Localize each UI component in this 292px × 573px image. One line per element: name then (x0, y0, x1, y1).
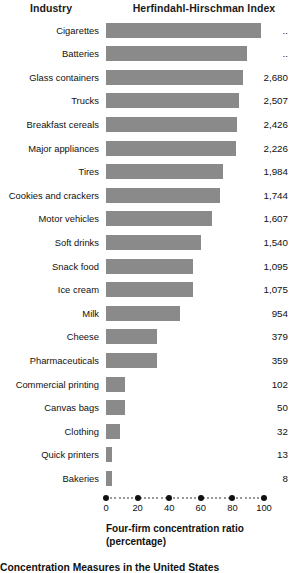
axis-dot (144, 497, 146, 499)
axis-dot (114, 497, 116, 499)
bar (106, 306, 180, 321)
industry-label: Motor vehicles (0, 207, 99, 231)
industry-label: Canvas bags (0, 396, 99, 420)
hhi-value: 8 (228, 466, 288, 490)
chart-column-headers: Industry Herfindahl-Hirschman Index (0, 0, 292, 18)
hhi-value: 2,426 (228, 112, 288, 136)
x-axis-title-line2: (percentage) (106, 536, 292, 549)
axis-tick-marker (166, 495, 172, 501)
table-row: Commercial printing102 (0, 372, 292, 396)
axis-tick-marker (198, 495, 204, 501)
hhi-value: 359 (228, 348, 288, 372)
bar (106, 471, 112, 486)
bar (106, 447, 112, 462)
industry-label: Cheese (0, 325, 99, 349)
bar (106, 70, 243, 85)
table-row: Ice cream1,075 (0, 278, 292, 302)
industry-label: Clothing (0, 419, 99, 443)
axis-dot (161, 497, 163, 499)
table-row: Major appliances2,226 (0, 136, 292, 160)
hhi-value: 50 (228, 396, 288, 420)
axis-tick-marker (229, 495, 235, 501)
table-row: Breakfast cereals2,426 (0, 112, 292, 136)
hhi-value: 1,744 (228, 183, 288, 207)
axis-dot (211, 497, 213, 499)
table-row: Cigarettes.. (0, 18, 292, 42)
industry-label: Trucks (0, 89, 99, 113)
axis-dot (110, 497, 112, 499)
axis-dot (173, 497, 175, 499)
bar (106, 424, 120, 439)
table-row: Pharmaceuticals359 (0, 348, 292, 372)
axis-dot (224, 497, 226, 499)
industry-label: Pharmaceuticals (0, 348, 99, 372)
axis-tick-marker (103, 495, 109, 501)
header-herfindahl-hirschman-index: Herfindahl-Hirschman Index (118, 2, 290, 14)
bar (106, 164, 223, 179)
industry-label: Cookies and crackers (0, 183, 99, 207)
axis-dot (152, 497, 154, 499)
bar (106, 329, 157, 344)
hhi-value: 1,095 (228, 254, 288, 278)
axis-dot (177, 497, 179, 499)
axis-dot (186, 497, 188, 499)
table-row: Quick printers13 (0, 443, 292, 467)
header-industry: Industry (0, 2, 102, 14)
hhi-value: 1,984 (228, 160, 288, 184)
industry-label: Soft drinks (0, 230, 99, 254)
bar (106, 93, 239, 108)
axis-dot (131, 497, 133, 499)
bar (106, 117, 237, 132)
table-row: Milk954 (0, 301, 292, 325)
caption-divider (0, 556, 292, 557)
table-row: Tires1,984 (0, 160, 292, 184)
hhi-value: .. (228, 42, 288, 66)
industry-label: Breakfast cereals (0, 112, 99, 136)
axis-dot (127, 497, 129, 499)
axis-dot (190, 497, 192, 499)
hhi-value: .. (228, 18, 288, 42)
hhi-value: 954 (228, 301, 288, 325)
table-row: Cookies and crackers1,744 (0, 183, 292, 207)
axis-tick-marker (135, 495, 141, 501)
axis-dot (245, 497, 247, 499)
industry-label: Tires (0, 160, 99, 184)
industry-label: Ice cream (0, 278, 99, 302)
table-row: Batteries.. (0, 42, 292, 66)
axis-dot (257, 497, 259, 499)
axis-dot (182, 497, 184, 499)
axis-dot (194, 497, 196, 499)
industry-label: Bakeries (0, 466, 99, 490)
table-row: Soft drinks1,540 (0, 230, 292, 254)
hhi-value: 32 (228, 419, 288, 443)
axis-dot (148, 497, 150, 499)
table-row: Canvas bags50 (0, 396, 292, 420)
industry-label: Commercial printing (0, 372, 99, 396)
table-row: Bakeries8 (0, 466, 292, 490)
industry-label: Batteries (0, 42, 99, 66)
x-axis: 020406080100 (0, 490, 292, 520)
bar (106, 188, 220, 203)
hhi-value: 1,075 (228, 278, 288, 302)
bar-chart-plot-area: Cigarettes..Batteries..Glass containers2… (0, 18, 292, 490)
table-row: Motor vehicles1,607 (0, 207, 292, 231)
industry-label: Milk (0, 301, 99, 325)
hhi-value: 1,540 (228, 230, 288, 254)
axis-dot (253, 497, 255, 499)
axis-dot (207, 497, 209, 499)
hhi-value: 1,607 (228, 207, 288, 231)
bar (106, 400, 125, 415)
hhi-value: 2,507 (228, 89, 288, 113)
axis-dot (249, 497, 251, 499)
table-row: Snack food1,095 (0, 254, 292, 278)
bar (106, 141, 236, 156)
industry-label: Major appliances (0, 136, 99, 160)
hhi-value: 2,226 (228, 136, 288, 160)
axis-dot (236, 497, 238, 499)
table-row: Clothing32 (0, 419, 292, 443)
bar (106, 46, 247, 61)
bar (106, 211, 212, 226)
hhi-value: 2,680 (228, 65, 288, 89)
hhi-value: 13 (228, 443, 288, 467)
hhi-value: 102 (228, 372, 288, 396)
